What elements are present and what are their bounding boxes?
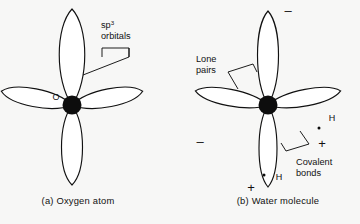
sp3-label-base: sp	[101, 20, 111, 30]
charge-label-left-negative: –	[196, 134, 204, 149]
lone-pairs-label-line1: Lone	[196, 54, 216, 64]
hydrogen-label-right: H	[329, 113, 336, 123]
electron-dot-right	[318, 127, 321, 130]
lone-pairs-label-line2: pairs	[196, 65, 216, 75]
figure-background	[0, 0, 360, 224]
covalent-bonds-label-line2: bonds	[296, 168, 321, 178]
sp3-label-superscript: 3	[111, 19, 115, 26]
electron-dot-bottom	[263, 174, 266, 177]
oxygen-nucleus	[63, 96, 82, 115]
charge-label-right-positive: +	[318, 136, 326, 151]
charge-label-top-negative: –	[284, 3, 292, 18]
oxygen-atom-label: O	[52, 92, 59, 102]
sp3-orbitals-label-line2: orbitals	[101, 31, 131, 41]
orbital-diagram-figure: O sp3 orbitals (a) Oxygen atom	[0, 0, 360, 224]
hydrogen-label-bottom: H	[276, 172, 283, 182]
covalent-bonds-label-line1: Covalent	[296, 157, 333, 167]
panel-a-caption: (a) Oxygen atom	[42, 195, 115, 206]
oxygen-nucleus	[259, 96, 278, 115]
charge-label-bottom-positive: +	[247, 180, 255, 195]
panel-b-caption: (b) Water molecule	[237, 195, 319, 206]
